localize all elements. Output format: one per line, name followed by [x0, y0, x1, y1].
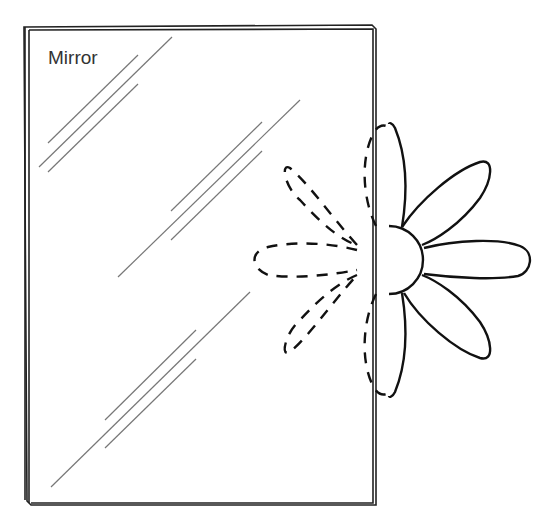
mirror-frame — [24, 25, 376, 505]
mirror-label: Mirror — [48, 47, 98, 69]
real-flower — [389, 123, 530, 397]
mirror-diagram — [0, 0, 540, 519]
reflected-flower — [255, 126, 390, 395]
flower-disc — [389, 226, 423, 294]
shine-lines — [39, 37, 300, 487]
